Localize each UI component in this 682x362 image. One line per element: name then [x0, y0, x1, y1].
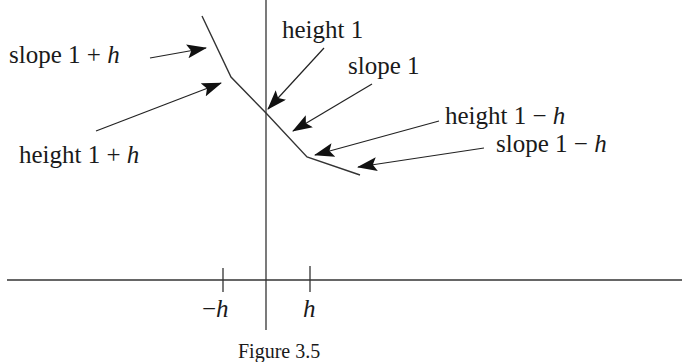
- label-text: height 1: [282, 16, 363, 43]
- tick-var: h: [303, 295, 316, 322]
- label-height-left: height 1 + h: [19, 142, 139, 167]
- label-height-right: height 1 − h: [445, 103, 565, 128]
- label-var: h: [127, 141, 140, 168]
- tick-sign: −: [202, 295, 216, 322]
- arrow-slope-right: [358, 148, 484, 167]
- tick-label-pos-h: h: [303, 296, 316, 321]
- tick-var: h: [216, 295, 229, 322]
- label-var: h: [594, 130, 607, 157]
- label-text: height 1 −: [445, 102, 553, 129]
- label-text: height 1 +: [19, 141, 127, 168]
- arrow-slope-left: [150, 48, 206, 58]
- figure-caption: Figure 3.5: [238, 341, 320, 361]
- label-slope-center: slope 1: [348, 53, 420, 78]
- arrow-height-right: [315, 121, 439, 155]
- label-height-center: height 1: [282, 17, 363, 42]
- label-var: h: [553, 102, 566, 129]
- arrow-slope-center: [293, 84, 372, 131]
- label-text: slope 1 −: [496, 130, 594, 157]
- label-slope-right: slope 1 − h: [496, 131, 607, 156]
- label-text: slope 1: [348, 52, 420, 79]
- arrow-height-left: [96, 83, 221, 131]
- label-var: h: [107, 41, 120, 68]
- label-slope-left: slope 1 + h: [9, 42, 120, 67]
- tick-label-neg-h: −h: [202, 296, 229, 321]
- arrow-height-center: [268, 48, 324, 109]
- label-text: slope 1 +: [9, 41, 107, 68]
